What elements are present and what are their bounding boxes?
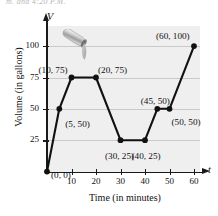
data-point-30-25 — [118, 137, 124, 143]
data-point-60-100 — [191, 43, 197, 49]
point-label-40-25: (40, 25) — [132, 151, 161, 161]
data-point-45-50 — [154, 106, 160, 112]
point-label-60-100: (60, 100) — [156, 31, 190, 41]
point-label-10-75: (10, 75) — [39, 65, 68, 75]
point-label-0-0: (0, 0) — [51, 170, 71, 180]
data-point-0-0 — [44, 169, 50, 175]
point-label-30-25: (30, 25) — [105, 151, 134, 161]
data-point-40-25 — [142, 137, 148, 143]
data-point-50-50 — [167, 106, 173, 112]
point-label-5-50: (5, 50) — [65, 119, 90, 129]
data-point-5-50 — [56, 106, 62, 112]
data-point-20-75 — [93, 75, 99, 81]
point-label-20-75: (20, 75) — [98, 65, 127, 75]
volume-vs-time-figure: m. and 4:20 P.M. V t 255075100 102030405… — [0, 0, 218, 216]
point-label-45-50: (45, 50) — [141, 96, 170, 106]
data-point-10-75 — [69, 75, 75, 81]
point-label-50-50: (50, 50) — [172, 117, 201, 127]
